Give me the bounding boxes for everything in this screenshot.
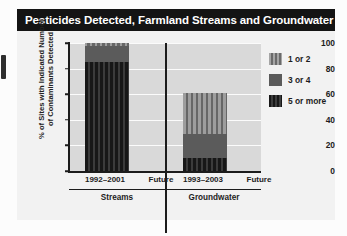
bar-streams-1992-2001[interactable] [85,43,129,171]
y-axis-title-line2: of Contaminants Detected [46,19,55,139]
chart-body: % of Sites with Indicated Number of Cont… [17,31,335,220]
bar-segment-1-or-2 [85,43,129,46]
page-edge-artifact [1,55,6,79]
group-rule-groundwater [167,189,261,190]
bar-segment-1-or-2 [183,93,227,134]
legend-swatch-3-or-4 [269,74,282,86]
group-rule-streams [69,189,165,190]
bar-segment-3-or-4 [85,46,129,63]
group-divider-line [165,43,167,233]
y-axis-line [68,42,70,172]
legend-label-3-or-4: 3 or 4 [288,75,310,85]
bar-segment-3-or-4 [183,134,227,158]
legend-item-1-or-2[interactable]: 1 or 2 [269,53,335,65]
y-tick-label-20: 20 [291,140,335,150]
y-axis-title: % of Sites with Indicated Number of Cont… [37,19,57,139]
bar-segment-5-or-more [183,158,227,171]
legend-item-5-or-more[interactable]: 5 or more [269,95,335,107]
chart-card: Pesticides Detected, Farmland Streams an… [17,9,335,220]
y-tick-label-40: 40 [291,115,335,125]
legend-label-5-or-more: 5 or more [288,96,326,106]
group-label-groundwater: Groundwater [167,193,261,202]
y-tick-label-100: 100 [291,38,335,48]
legend-item-3-or-4[interactable]: 3 or 4 [269,74,335,86]
legend-swatch-5-or-more [269,95,282,107]
bar-segment-5-or-more [85,62,129,171]
chart-title: Pesticides Detected, Farmland Streams an… [17,14,334,26]
chart-legend: 1 or 2 3 or 4 5 or more [269,53,335,116]
bar-groundwater-1993-2003[interactable] [183,43,227,171]
y-tick-label-0: 0 [291,166,335,176]
legend-label-1-or-2: 1 or 2 [288,54,310,64]
legend-swatch-1-or-2 [269,53,282,65]
chart-title-bar: Pesticides Detected, Farmland Streams an… [17,9,335,31]
y-axis-title-line1: % of Sites with Indicated Number [37,19,46,139]
chart-figure: Pesticides Detected, Farmland Streams an… [0,0,347,236]
group-label-streams: Streams [69,193,165,202]
x-label-groundwater-future: Future [227,175,291,184]
